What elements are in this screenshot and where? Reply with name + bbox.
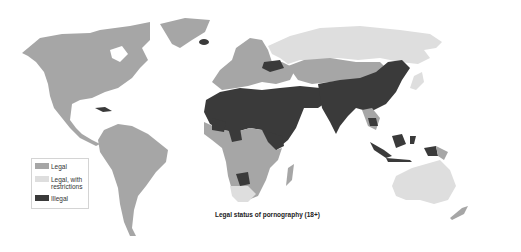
region-south-america [98,124,168,236]
legend-label-restricted: Legal, with restrictions [51,176,89,190]
region-indonesia [370,142,392,158]
region-cuba [95,107,112,112]
region-madagascar [286,164,294,186]
region-australia [392,160,456,204]
legend-item-legal-with-restrictions: Legal, with restrictions [35,176,89,190]
legend-item-illegal: Illegal [35,195,68,202]
legend-item-legal: Legal [35,163,67,170]
region-russia [268,26,442,64]
region-new-guinea-west [424,146,438,156]
region-japan [410,72,424,90]
region-new-zealand [450,206,468,220]
legend-swatch-legal [35,163,49,169]
region-papua-new-guinea [436,146,448,160]
region-sulawesi [410,136,416,144]
region-java [386,158,412,162]
legend-label-illegal: Illegal [51,195,68,202]
map-title: Legal status of pornography (18+) [215,211,320,218]
legend-label-legal: Legal [51,163,67,170]
map-legend: Legal Legal, with restrictions Illegal [31,158,89,209]
region-iceland [199,39,209,45]
legend-swatch-restricted [35,176,49,182]
legend-swatch-illegal [35,195,49,201]
region-borneo [392,134,406,148]
